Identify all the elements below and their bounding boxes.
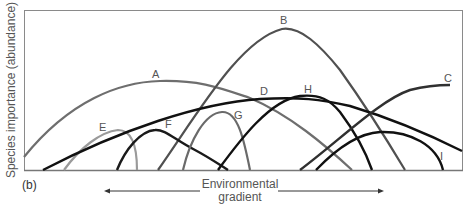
label-b: B: [280, 14, 287, 26]
arrow-left-icon: [104, 189, 110, 194]
curve-i: [316, 132, 443, 170]
label-g: G: [234, 109, 243, 121]
label-a: A: [152, 68, 159, 80]
label-i: I: [440, 150, 443, 162]
label-d: D: [260, 85, 268, 97]
label-f: F: [165, 118, 172, 130]
x-axis-label-line2: gradient: [200, 191, 280, 204]
y-axis-label: Species importance (abundance): [4, 2, 18, 178]
label-e: E: [99, 121, 106, 133]
panel-label: (b): [22, 178, 37, 192]
arrow-right-icon: [378, 189, 384, 194]
label-c: C: [444, 72, 452, 84]
x-axis-label: Environmental gradient: [200, 178, 280, 204]
y-axis-label-container: Species importance (abundance): [3, 10, 19, 170]
curve-e: [64, 130, 137, 170]
label-h: H: [304, 83, 312, 95]
